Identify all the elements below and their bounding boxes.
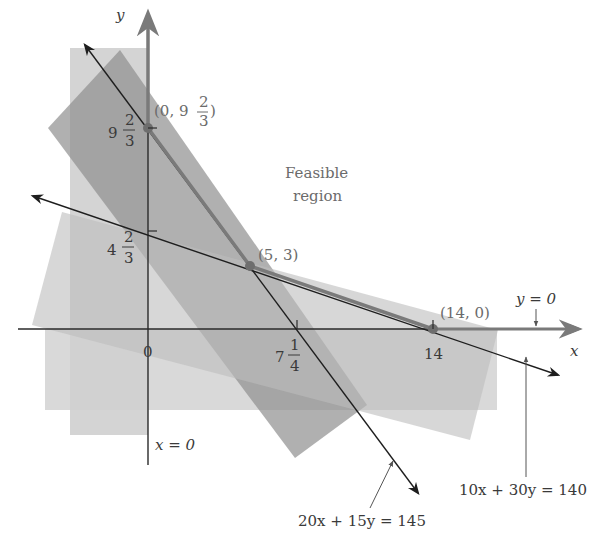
x-tick-14: 14 [424,345,443,363]
svg-text:1: 1 [290,336,300,354]
label-x-equals-0: x = 0 [155,436,196,454]
svg-text:2: 2 [199,93,209,111]
svg-text:4: 4 [107,241,117,259]
label-line1: 20x + 15y = 145 [298,512,426,530]
region-label-line2: region [293,187,342,205]
svg-text:2: 2 [125,111,135,129]
svg-text:): ) [210,102,216,120]
origin-label: 0 [143,343,153,361]
svg-text:3: 3 [124,249,134,267]
svg-text:3: 3 [125,132,135,150]
svg-text:3: 3 [199,112,209,130]
vertex-label-5-3: (5, 3) [258,246,298,264]
svg-text:4: 4 [290,357,300,375]
region-label-line1: Feasible [285,164,348,182]
vertex-label-14-0: (14, 0) [440,304,490,322]
vertex-5-3 [245,261,255,271]
x-axis-label: x [570,342,579,360]
svg-text:2: 2 [124,228,134,246]
svg-text:(0, 9: (0, 9 [154,102,188,120]
feasible-region-diagram: y x 0 9 2 3 4 2 3 7 1 4 14 (0, 9 2 3 ) (… [0,0,599,547]
svg-text:9: 9 [108,124,118,142]
svg-text:7: 7 [275,348,285,366]
label-line2: 10x + 30y = 140 [459,481,587,499]
label-y-equals-0: y = 0 [515,290,557,308]
y-axis-label: y [115,6,125,24]
leader-line1 [370,461,393,508]
